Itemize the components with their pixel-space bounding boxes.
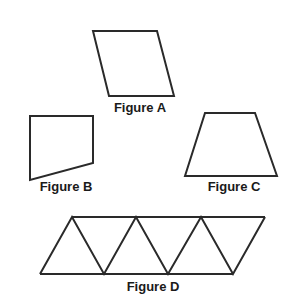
figure-b-shape <box>30 116 93 180</box>
figure-a-shape <box>93 31 174 96</box>
figure-a-label: Figure A <box>114 100 166 115</box>
figure-d-shape <box>40 217 265 274</box>
figure-c-shape <box>185 113 277 176</box>
figure-d-label: Figure D <box>127 279 180 294</box>
figure-b-label: Figure B <box>40 179 93 194</box>
figure-c-label: Figure C <box>208 179 261 194</box>
figures-canvas <box>0 0 296 306</box>
